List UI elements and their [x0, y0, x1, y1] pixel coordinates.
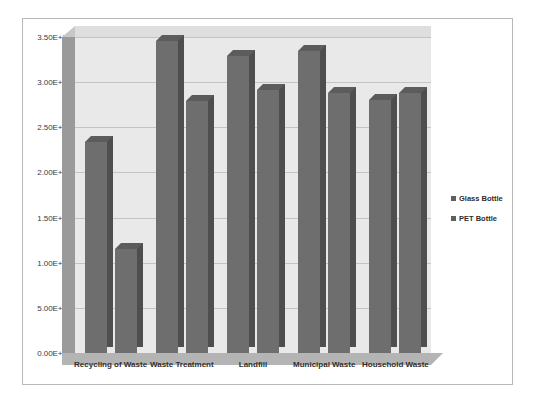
gridline — [75, 37, 431, 38]
bar[interactable] — [328, 93, 350, 353]
bar-side-face — [350, 87, 356, 347]
bar[interactable] — [85, 142, 107, 353]
x-axis-tick-label: Household Waste — [357, 359, 433, 370]
bar-side-face — [107, 136, 113, 347]
bar[interactable] — [369, 100, 391, 353]
legend-swatch-icon — [451, 216, 456, 221]
plot-left-wall — [62, 37, 75, 353]
plot-back-wall-top — [75, 26, 431, 37]
plot-left-wall-top — [62, 26, 75, 37]
bar[interactable] — [257, 90, 279, 353]
bar-side-face — [279, 84, 285, 347]
bar[interactable] — [298, 51, 320, 353]
bar-front-face — [257, 90, 279, 353]
bar-side-face — [249, 50, 255, 347]
bar-side-face — [391, 94, 397, 347]
plot-area — [75, 37, 431, 353]
x-axis-tick-label: Municipal Waste — [286, 359, 362, 370]
bar-front-face — [328, 93, 350, 353]
bar-front-face — [115, 249, 137, 353]
bar-side-face — [178, 35, 184, 347]
legend-item-glass-bottle: Glass Bottle — [451, 194, 521, 203]
legend-swatch-icon — [451, 196, 456, 201]
bar-side-face — [208, 95, 214, 347]
bar-front-face — [186, 101, 208, 353]
bar-front-face — [399, 93, 421, 353]
legend-item-pet-bottle: PET Bottle — [451, 214, 521, 223]
bar-front-face — [156, 41, 178, 353]
legend-label: PET Bottle — [459, 214, 497, 223]
chart-legend: Glass Bottle PET Bottle — [451, 194, 521, 234]
bar[interactable] — [186, 101, 208, 353]
legend-label: Glass Bottle — [459, 194, 503, 203]
bar-front-face — [298, 51, 320, 353]
bar-front-face — [85, 142, 107, 353]
bar-front-face — [369, 100, 391, 353]
bar-side-face — [320, 45, 326, 347]
x-axis-tick-label: Landfill — [215, 359, 291, 370]
bar[interactable] — [156, 41, 178, 353]
bar[interactable] — [115, 249, 137, 353]
x-axis: Recycling of WasteWaste TreatmentLandfil… — [75, 359, 445, 389]
x-axis-tick-label: Recycling of Waste — [73, 359, 149, 370]
bar[interactable] — [227, 56, 249, 353]
x-axis-tick-label: Waste Treatment — [144, 359, 220, 370]
bar[interactable] — [399, 93, 421, 353]
bar-side-face — [421, 87, 427, 347]
bar-side-face — [137, 243, 143, 347]
bar-front-face — [227, 56, 249, 353]
chart-frame: 0.00E+005.00E+091.00E+101.50E+102.00E+10… — [22, 18, 513, 385]
